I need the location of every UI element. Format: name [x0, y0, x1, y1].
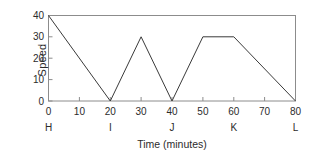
x-axis-title: Time (minutes) — [48, 138, 296, 150]
point-letter-k: K — [222, 123, 246, 133]
x-tick-label-80: 80 — [284, 107, 308, 117]
point-letter-h: H — [37, 123, 61, 133]
speed-time-chart: Speed 40 30 20 10 0 0 10 20 30 40 50 60 … — [0, 0, 312, 160]
x-tick-label-0: 0 — [37, 107, 61, 117]
x-tick-label-10: 10 — [67, 107, 91, 117]
y-tick-label-10: 10 — [22, 75, 44, 85]
x-tick-label-50: 50 — [191, 107, 215, 117]
y-tick-label-20: 20 — [22, 54, 44, 64]
point-letter-j: J — [160, 123, 184, 133]
point-letter-l: L — [284, 123, 308, 133]
speed-data-line — [49, 16, 296, 102]
plot-frame — [49, 16, 296, 102]
x-tick-label-20: 20 — [98, 107, 122, 117]
x-tick-label-40: 40 — [160, 107, 184, 117]
y-tick-label-30: 30 — [22, 32, 44, 42]
x-tick-label-30: 30 — [129, 107, 153, 117]
x-tick-label-70: 70 — [253, 107, 277, 117]
point-letter-i: I — [98, 123, 122, 133]
y-tick-label-0: 0 — [22, 97, 44, 107]
x-tick-label-60: 60 — [222, 107, 246, 117]
y-tick-label-40: 40 — [22, 11, 44, 21]
